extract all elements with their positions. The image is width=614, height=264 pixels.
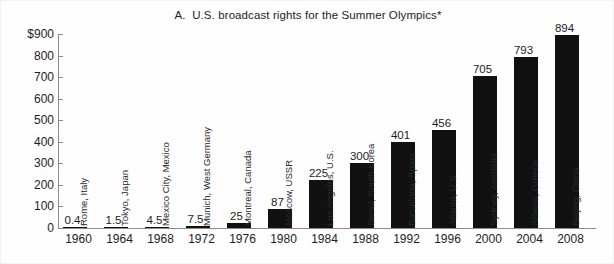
bar-city-annotation: Rome, Italy [79, 178, 89, 226]
bar-group[interactable]: 894Beijing, China [550, 34, 591, 228]
bar-value-label: 705 [466, 63, 499, 75]
bar-city-annotation: Seoul, South Korea [366, 144, 376, 226]
bar-value-label: 456 [425, 117, 458, 129]
y-axis-tick-mark [58, 120, 63, 121]
bar-group[interactable]: 0.4Rome, Italy [58, 34, 99, 228]
bar-group[interactable]: 1.5Tokyo, Japan [99, 34, 140, 228]
bar-value-label: 793 [507, 44, 540, 56]
bar-city-annotation: Beijing, China [571, 167, 581, 226]
bars-layer: 0.4Rome, Italy1.5Tokyo, Japan4.5Mexico C… [58, 34, 596, 228]
y-axis-tick-mark [58, 99, 63, 100]
y-axis-tick-mark [58, 34, 63, 35]
x-axis-tick-label: 2000 [468, 232, 509, 246]
y-axis-tick-label: $900 [2, 27, 54, 41]
y-axis-tick-mark [58, 56, 63, 57]
x-axis-line [58, 228, 596, 229]
x-axis-tick-label: 1964 [99, 232, 140, 246]
bar-city-annotation: Los Angeles, U.S. [325, 150, 335, 226]
x-axis-tick-labels: 1960196419681972197619801984198819921996… [58, 232, 596, 252]
x-axis-tick-label: 1988 [345, 232, 386, 246]
y-axis-tick-mark [58, 163, 63, 164]
y-axis-tick-label: 600 [2, 92, 54, 106]
x-axis-tick-label: 1980 [263, 232, 304, 246]
bar-group[interactable]: 4.5Mexico City, Mexico [140, 34, 181, 228]
bar-value-label: 401 [384, 129, 417, 141]
bar-group[interactable]: 25Montreal, Canada [222, 34, 263, 228]
bar-city-annotation: Barcelona, Spain [407, 154, 417, 226]
bar-city-annotation: Mexico City, Mexico [161, 142, 171, 226]
bar-group[interactable]: 300Seoul, South Korea [345, 34, 386, 228]
y-axis-tick-mark [58, 142, 63, 143]
bar[interactable] [63, 227, 87, 228]
y-axis-tick-mark [58, 185, 63, 186]
y-axis-tick-label: 700 [2, 70, 54, 84]
y-axis-tick-label: 0 [2, 221, 54, 235]
x-axis-tick-label: 1992 [386, 232, 427, 246]
bar-group[interactable]: 793Athens, Greece [509, 34, 550, 228]
olympics-broadcast-rights-chart: A. U.S. broadcast rights for the Summer … [0, 0, 614, 264]
x-axis-tick-label: 1960 [58, 232, 99, 246]
x-axis-tick-label: 1972 [181, 232, 222, 246]
y-axis-tick-label: 100 [2, 199, 54, 213]
bar-city-annotation: Montreal, Canada [243, 150, 253, 226]
bar-city-annotation: Moscow, USSR [284, 160, 294, 226]
y-axis-tick-label: 400 [2, 135, 54, 149]
bar-group[interactable]: 225Los Angeles, U.S. [304, 34, 345, 228]
bar-group[interactable]: 456Atlanta, U.S. [427, 34, 468, 228]
bar-value-label: 894 [548, 22, 581, 34]
bar-group[interactable]: 705Sydney, Australia [468, 34, 509, 228]
bar-group[interactable]: 87Moscow, USSR [263, 34, 304, 228]
x-axis-tick-label: 1984 [304, 232, 345, 246]
x-axis-tick-label: 2004 [509, 232, 550, 246]
x-axis-tick-label: 1968 [140, 232, 181, 246]
bar-city-annotation: Athens, Greece [530, 160, 540, 226]
x-axis-tick-label: 2008 [550, 232, 591, 246]
bar-city-annotation: Atlanta, U.S. [448, 173, 458, 226]
bar-city-annotation: Munich, West Germany [202, 127, 212, 226]
y-axis-tick-label: 800 [2, 49, 54, 63]
y-axis-tick-mark [58, 206, 63, 207]
x-axis-tick-label: 1976 [222, 232, 263, 246]
bar[interactable] [186, 226, 210, 228]
bar[interactable] [145, 227, 169, 228]
y-axis-tick-labels: $9008007006005004003002001000 [1, 1, 54, 264]
y-axis-tick-label: 300 [2, 156, 54, 170]
bar-group[interactable]: 7.5Munich, West Germany [181, 34, 222, 228]
y-axis-tick-mark [58, 77, 63, 78]
page-title: A. U.S. broadcast rights for the Summer … [1, 9, 614, 21]
y-axis-tick-label: 200 [2, 178, 54, 192]
bar[interactable] [104, 227, 128, 228]
x-axis-tick-label: 1996 [427, 232, 468, 246]
bar-city-annotation: Tokyo, Japan [120, 170, 130, 226]
bar-group[interactable]: 401Barcelona, Spain [386, 34, 427, 228]
bar-city-annotation: Sydney, Australia [489, 153, 499, 226]
y-axis-tick-label: 500 [2, 113, 54, 127]
